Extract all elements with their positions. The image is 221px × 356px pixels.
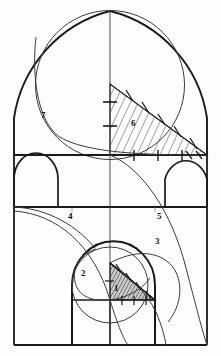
geometric-diagram: 1 2 3 4 5 6 7 — [0, 0, 221, 356]
construction-curve-2 — [74, 249, 110, 300]
label-3: 3 — [155, 237, 160, 246]
label-4: 4 — [68, 212, 73, 221]
label-1: 1 — [114, 284, 119, 293]
diagram-canvas — [0, 0, 221, 356]
label-7: 7 — [41, 111, 46, 120]
arch-window-right — [165, 161, 207, 207]
label-2: 2 — [81, 269, 86, 278]
label-5: 5 — [157, 212, 162, 221]
label-6: 6 — [131, 119, 136, 128]
construction-curve-4b — [14, 207, 95, 248]
arch-window-left — [14, 153, 58, 207]
